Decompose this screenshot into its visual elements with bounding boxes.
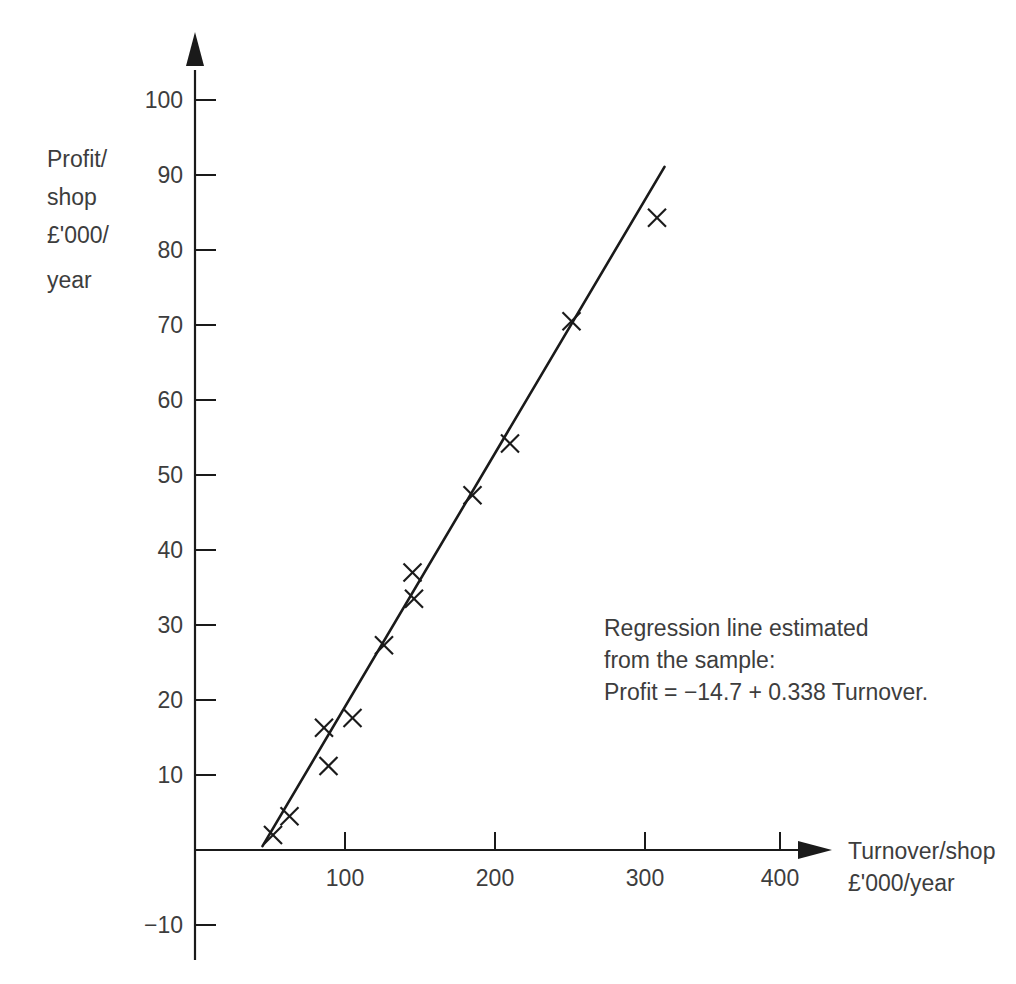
x-tick-label-100: 100 — [326, 865, 364, 891]
x-tick-label-300: 300 — [626, 865, 664, 891]
annotation-line-2: from the sample: — [604, 647, 775, 673]
x-tick-label-400: 400 — [761, 865, 799, 891]
y-axis-title-line-1: Profit/ — [47, 146, 108, 172]
x-axis-arrowhead — [798, 841, 832, 859]
x-tick-label-200: 200 — [476, 865, 514, 891]
y-tick-label-minus10: −10 — [144, 912, 183, 938]
data-point-marker — [320, 757, 338, 775]
annotation-line-3: Profit = −14.7 + 0.338 Turnover. — [604, 679, 928, 705]
data-point-marker — [404, 564, 422, 582]
x-axis-title: Turnover/shop £'000/year — [848, 838, 995, 896]
data-point-marker — [315, 719, 333, 737]
y-axis-title-line-4: year — [47, 267, 92, 293]
annotation-line-1: Regression line estimated — [604, 615, 869, 641]
y-tick-label-90: 90 — [157, 162, 183, 188]
y-axis-ticks — [195, 100, 216, 925]
y-axis-arrowhead — [186, 32, 204, 66]
regression-annotation: Regression line estimated from the sampl… — [604, 615, 928, 705]
y-tick-label-100: 100 — [145, 87, 183, 113]
x-axis-title-line-2: £'000/year — [848, 870, 955, 896]
regression-scatter-chart: −10 10 20 30 40 50 60 70 80 90 100 100 2… — [0, 0, 1016, 984]
y-axis-title-line-2: shop — [47, 184, 97, 210]
y-tick-label-40: 40 — [157, 537, 183, 563]
y-tick-label-70: 70 — [157, 312, 183, 338]
data-point-marker — [501, 435, 519, 453]
y-axis-title-line-3: £'000/ — [47, 222, 110, 248]
x-axis-title-line-1: Turnover/shop — [848, 838, 995, 864]
y-axis-title: Profit/ shop £'000/ year — [47, 146, 110, 293]
data-point-marker — [648, 209, 666, 227]
x-axis-ticks — [345, 832, 780, 850]
y-tick-label-10: 10 — [157, 762, 183, 788]
data-point-marker — [281, 807, 299, 825]
data-point-marker — [563, 312, 581, 330]
data-point-marker — [344, 709, 362, 727]
y-tick-label-80: 80 — [157, 237, 183, 263]
y-tick-label-20: 20 — [157, 687, 183, 713]
data-point-markers — [264, 209, 666, 844]
y-tick-label-30: 30 — [157, 612, 183, 638]
y-tick-label-60: 60 — [157, 387, 183, 413]
regression-line — [263, 167, 665, 846]
y-tick-label-50: 50 — [157, 462, 183, 488]
